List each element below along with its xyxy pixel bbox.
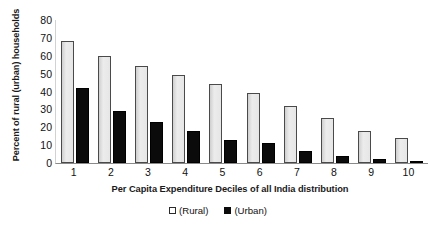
x-axis-tick: 3 (129, 166, 166, 178)
y-axis-tick-labels: 80706050403020100 (22, 13, 52, 169)
x-axis-tick: 10 (390, 166, 427, 178)
y-axis-tick: 60 (22, 51, 52, 61)
bar-rural-decile-4 (172, 75, 185, 163)
bar-groups (56, 20, 428, 163)
bar-rural-decile-9 (358, 131, 371, 163)
legend-label-rural: (Rural) (179, 205, 208, 216)
chart-legend: (Rural) (Urban) (0, 205, 436, 216)
bar-group (391, 20, 428, 163)
x-axis-tick-labels: 12345678910 (55, 166, 427, 178)
bar-urban-decile-3 (150, 122, 163, 163)
y-axis-tick: 40 (22, 87, 52, 97)
bar-rural-decile-7 (284, 106, 297, 163)
x-axis-tick: 6 (241, 166, 278, 178)
bar-urban-decile-10 (410, 161, 423, 163)
legend-swatch-rural-icon (169, 207, 176, 214)
y-axis-tick: 0 (22, 158, 52, 168)
bar-urban-decile-9 (373, 159, 386, 163)
bar-rural-decile-8 (321, 118, 334, 163)
bar-group (354, 20, 391, 163)
bar-urban-decile-6 (262, 143, 275, 163)
y-axis-tick: 80 (22, 15, 52, 25)
x-axis-tick: 5 (204, 166, 241, 178)
bar-rural-decile-6 (247, 93, 260, 163)
bar-rural-decile-5 (209, 84, 222, 163)
x-axis-tick: 9 (353, 166, 390, 178)
bar-group (130, 20, 167, 163)
legend-item-urban: (Urban) (224, 205, 267, 216)
x-axis-tick: 1 (55, 166, 92, 178)
x-axis-tick: 4 (167, 166, 204, 178)
bar-urban-decile-8 (336, 156, 349, 163)
y-axis-tick: 50 (22, 69, 52, 79)
legend-label-urban: (Urban) (234, 205, 267, 216)
legend-item-rural: (Rural) (169, 205, 208, 216)
bar-group (242, 20, 279, 163)
bar-group (93, 20, 130, 163)
bar-urban-decile-2 (113, 111, 126, 163)
bar-rural-decile-10 (395, 138, 408, 163)
bar-group (205, 20, 242, 163)
bar-rural-decile-3 (135, 66, 148, 163)
bar-urban-decile-7 (299, 151, 312, 164)
x-axis-tick: 2 (92, 166, 129, 178)
bar-urban-decile-1 (76, 88, 89, 163)
y-axis-tick: 70 (22, 33, 52, 43)
x-axis-tick: 8 (315, 166, 352, 178)
x-axis-title: Per Capita Expenditure Deciles of all In… (30, 184, 430, 194)
plot-area (55, 20, 428, 164)
bar-group (168, 20, 205, 163)
bar-urban-decile-5 (224, 140, 237, 163)
y-axis-tick: 20 (22, 122, 52, 132)
y-axis-tick: 10 (22, 140, 52, 150)
bar-group (56, 20, 93, 163)
y-axis-title: Percent of rural (urban) households (11, 0, 21, 170)
bar-urban-decile-4 (187, 131, 200, 163)
bar-chart: Percent of rural (urban) households 8070… (0, 0, 436, 228)
bar-group (279, 20, 316, 163)
bar-rural-decile-1 (61, 41, 74, 163)
x-axis-tick: 7 (278, 166, 315, 178)
bar-rural-decile-2 (98, 56, 111, 163)
legend-swatch-urban-icon (224, 207, 231, 214)
y-axis-tick: 30 (22, 104, 52, 114)
bar-group (316, 20, 353, 163)
